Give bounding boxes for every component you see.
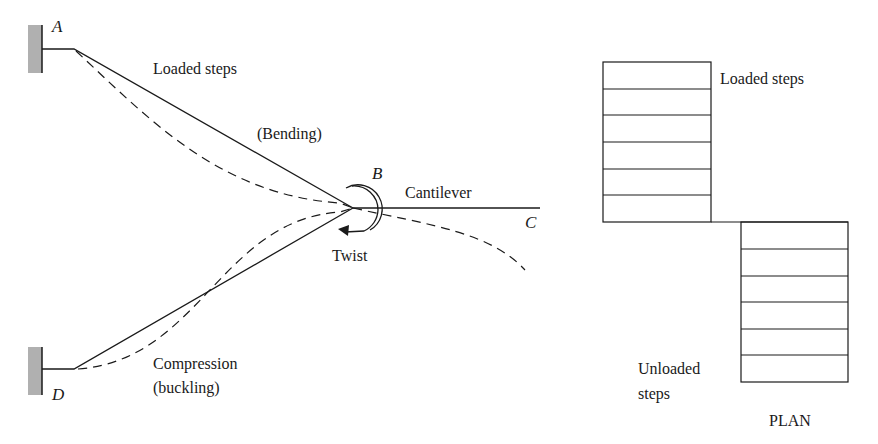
members (42, 49, 540, 369)
node-c-label: C (525, 214, 536, 232)
support-d (28, 347, 42, 395)
plan-unloaded-label-line2: steps (638, 385, 670, 403)
node-a-label: A (52, 18, 62, 36)
plan-loaded-label: Loaded steps (720, 70, 804, 88)
twist-label: Twist (332, 247, 367, 265)
deflected-shapes (76, 51, 525, 369)
node-b-label: B (372, 165, 382, 183)
member-db (42, 208, 353, 369)
cantilever-label: Cantilever (405, 184, 472, 202)
buckling-label: (buckling) (153, 379, 220, 397)
support-a (28, 25, 42, 73)
node-d-label: D (52, 386, 64, 404)
deflected-bc (353, 208, 525, 270)
plan-title: PLAN (769, 412, 811, 430)
compression-label: Compression (153, 355, 237, 373)
plan-unloaded-label-line1: Unloaded (638, 360, 700, 378)
bending-label: (Bending) (257, 125, 322, 143)
plan-unloaded-steps (741, 222, 848, 382)
diagram-canvas (0, 0, 878, 444)
loaded-steps-label: Loaded steps (153, 60, 237, 78)
